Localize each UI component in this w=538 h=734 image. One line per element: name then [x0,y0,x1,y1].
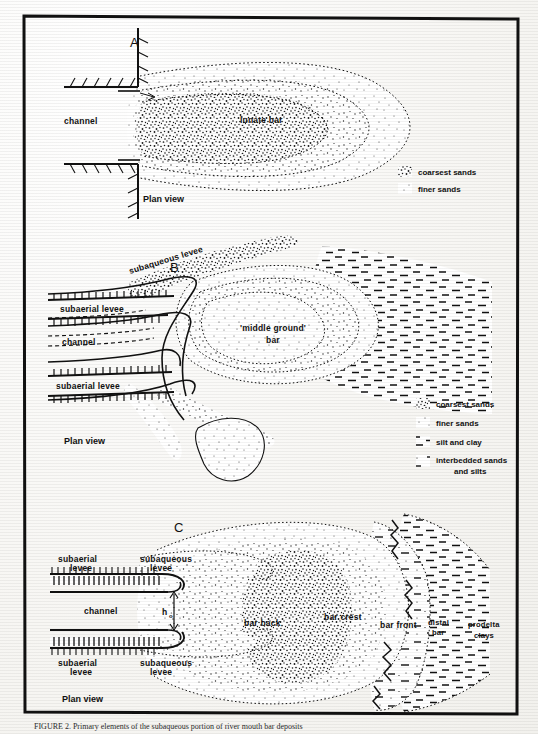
panel-c-label-bar-front: bar front [380,620,417,630]
finer-sands-swatch [398,183,412,194]
panel-b-label-middle-ground-bar-1: 'middle ground' [240,323,306,333]
figure-frame: A channel lunate bar Plan view coarsest … [22,14,520,716]
panel-c-label-depth-subscript: o [169,613,173,619]
coarsest-sands-swatch [398,166,412,177]
panel-c-label-prodelta-clays-2: clays [474,631,494,640]
panel-a-hatch-lower [70,164,138,218]
panel-b-label-subaerial-levee-lower: subaerial levee [56,381,120,391]
panel-a-legend: coarsest sands finer sands [398,166,477,194]
panel-c-label-prodelta-clays-1: prodelta [468,620,500,629]
panel-a: A channel lunate bar Plan view coarsest … [64,28,477,219]
finer-sands-swatch [416,417,430,428]
panel-c-label-channel: channel [84,606,118,616]
panel-b-label-channel: channel [62,337,96,347]
panel-c-label-depth-h: h [162,607,167,617]
legend-b-item-coarsest-sands: coarsest sands [416,398,495,409]
panel-c-label-bar-crest: bar crest [324,612,362,622]
panel-a-sand-deposit [112,44,442,214]
legend-a-item-coarsest-sands: coarsest sands [398,166,477,177]
panel-c-label-distal-bar-2: bar [432,628,444,637]
legend-a-item-finer-sands: finer sands [398,183,461,194]
panel-c-label-subaerial-levee-dn-2: levee [70,667,92,677]
legend-b-item-interbedded: interbedded sands and silts [416,455,508,476]
panel-b-label-subaerial-levee-upper: subaerial levee [60,304,124,314]
legend-b-item-silt-and-clay: silt and clay [416,436,482,447]
panel-b-plan-view-label: Plan view [64,436,106,446]
legend-b-label-coarsest-sands: coarsest sands [436,400,495,409]
legend-b-label-finer-sands: finer sands [436,419,479,428]
panel-c: C subaerial levee subaqueous levee chann… [50,504,512,716]
legend-b-label-interbedded-1: interbedded sands [436,456,508,465]
legend-a-label-finer-sands: finer sands [418,185,461,194]
panel-b-label-middle-ground-bar-2: bar [266,335,280,345]
panel-c-label-distal-bar-1: distal [428,618,449,627]
panel-a-plan-view-label: Plan view [143,194,185,204]
interbedded-swatch [416,455,430,467]
coarsest-sands-swatch [416,398,430,409]
panel-b: B subaqueous levee subaerial levee chann… [48,229,508,494]
panel-a-label-channel: channel [64,116,98,126]
panel-c-label-subaerial-levee-up-2: levee [70,563,92,573]
legend-b-label-silt-and-clay: silt and clay [436,438,482,447]
legend-b-item-finer-sands: finer sands [416,417,479,428]
figure-svg: A channel lunate bar Plan view coarsest … [22,14,520,716]
panel-c-plan-view-label: Plan view [62,694,104,704]
panel-c-label-bar-back: bar back [244,618,281,628]
panel-c-letter: C [174,520,183,535]
panel-c-label-subaqueous-levee-dn-2: levee [150,667,172,677]
silt-and-clay-swatch [416,436,430,447]
legend-b-label-interbedded-2: and silts [454,467,487,476]
panel-a-letter: A [130,35,139,50]
panel-c-label-subaqueous-levee-up-2: levee [150,563,172,573]
panel-a-label-lunate-bar: lunate bar [240,115,283,125]
legend-a-label-coarsest-sands: coarsest sands [418,168,477,177]
figure-caption: FIGURE 2. Primary elements of the subaqu… [34,722,514,731]
